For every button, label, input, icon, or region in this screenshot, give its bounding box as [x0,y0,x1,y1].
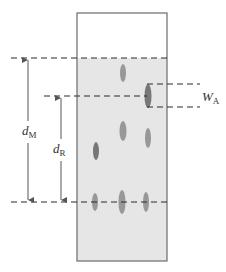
spot-5 [93,142,99,160]
spot-3 [120,121,127,141]
label-dR: dR [53,141,66,158]
tlc-plate-diagram: dM dR WA [0,0,226,272]
spot-1 [120,64,126,82]
label-WA: WA [202,89,220,106]
label-dR-sub: R [60,148,66,158]
plate-undeveloped-region [77,13,167,58]
plate-developed-region [77,58,167,261]
label-dM-sub: M [29,130,37,140]
label-WA-sub: A [213,96,220,106]
spot-4 [145,128,151,148]
label-dM: dM [22,123,37,140]
